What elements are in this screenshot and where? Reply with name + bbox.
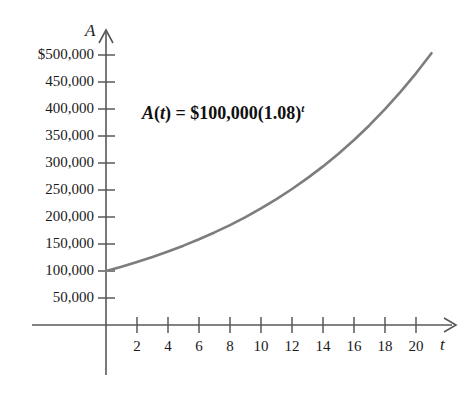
y-tick-label: 450,000 [0, 74, 94, 89]
y-tick-label: 150,000 [0, 236, 94, 251]
y-axis-label: A [85, 22, 95, 39]
x-axis-label: t [440, 336, 445, 353]
y-tick-label: 300,000 [0, 155, 94, 170]
formula-annotation: A(t) = $100,000(1.08)t [142, 104, 304, 122]
y-tick-label: 350,000 [0, 128, 94, 143]
y-tick-label: $500,000 [0, 47, 94, 62]
exponential-curve [106, 53, 432, 271]
formula-principal: $100,000 [190, 103, 258, 123]
y-tick-label: 100,000 [0, 263, 94, 278]
formula-equals: = [171, 103, 190, 123]
exponential-growth-chart: $500,000 450,000 400,000 350,000 300,000… [0, 0, 471, 403]
y-tick-label: 250,000 [0, 182, 94, 197]
x-tick-label: 20 [396, 339, 436, 354]
formula-exponent: t [301, 102, 304, 114]
y-tick-label: 50,000 [0, 290, 94, 305]
formula-base: 1.08 [264, 103, 296, 123]
y-tick-label: 400,000 [0, 101, 94, 116]
y-tick-label: 200,000 [0, 209, 94, 224]
formula-func-name: A [142, 103, 154, 123]
